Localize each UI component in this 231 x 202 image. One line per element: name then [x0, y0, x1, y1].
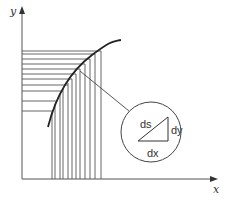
- leader-line: [80, 71, 129, 111]
- y-axis-label: y: [9, 5, 17, 18]
- y-axis-arrow-icon: [19, 6, 25, 14]
- curve: [48, 40, 121, 127]
- ds-label: ds: [140, 118, 152, 130]
- dy-label: dy: [171, 124, 183, 136]
- horizontal-projection-lines: [22, 51, 101, 111]
- x-axis-label: x: [213, 183, 220, 196]
- magnifier: ds dy dx: [121, 102, 183, 162]
- arc-length-diagram: y x ds dy dx: [0, 0, 231, 202]
- x-axis-arrow-icon: [210, 176, 218, 182]
- axes: y x: [9, 5, 220, 196]
- dx-label: dx: [147, 147, 159, 159]
